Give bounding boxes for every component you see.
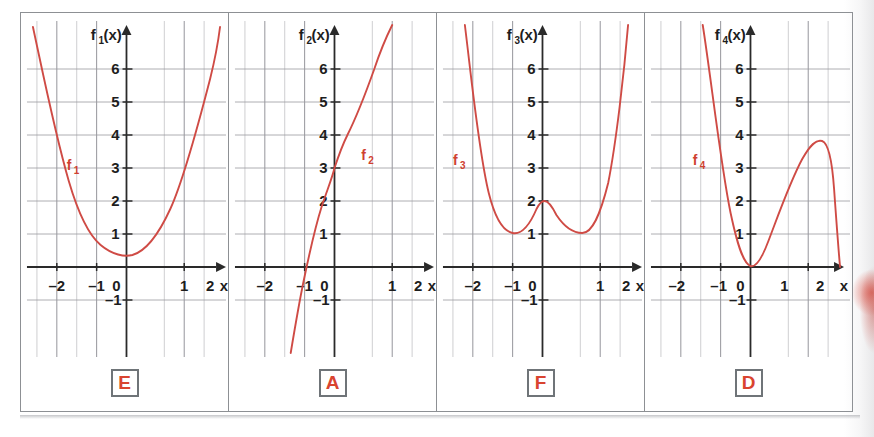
- y-tick-6: 6: [527, 60, 535, 77]
- y-axis-title-2: f 2 (x): [299, 26, 330, 46]
- tick-labels-1: –2 –1 0 1 2 x 6 5 4 3 2 1 –1: [49, 60, 228, 308]
- x-tick-2: 2: [816, 277, 824, 294]
- x-tick--1: –1: [88, 277, 105, 294]
- y-tick-6: 6: [111, 60, 119, 77]
- tick-labels-3: –2 –1 0 1 2 x 6 5 4 3 2 1 –1: [465, 60, 644, 308]
- y-axis-title-main: f: [91, 26, 97, 43]
- y-tick-4: 4: [527, 126, 536, 143]
- answer-box-2[interactable]: A: [319, 369, 347, 397]
- axes-4: [651, 25, 844, 357]
- curve-f3: [465, 25, 628, 233]
- chart-f4: –2 –1 0 1 2 x 6 5 4 3 2 1 –1: [645, 13, 852, 365]
- graph-panel-3: –2 –1 0 1 2 x 6 5 4 3 2 1 –1: [437, 13, 645, 411]
- y-tick-2: 2: [735, 192, 743, 209]
- x-axis-label: x: [636, 277, 644, 294]
- y-tick-5: 5: [527, 93, 535, 110]
- y-tick-1: 1: [319, 225, 327, 242]
- x-tick--2: –2: [49, 277, 66, 294]
- answer-row-2: A: [229, 369, 436, 397]
- answer-row-1: E: [21, 369, 228, 397]
- answer-row-3: F: [437, 369, 644, 397]
- y-tick--1: –1: [105, 291, 122, 308]
- x-tick-2: 2: [206, 277, 214, 294]
- chart-f3: –2 –1 0 1 2 x 6 5 4 3 2 1 –1: [437, 13, 644, 365]
- y-tick-3: 3: [111, 159, 119, 176]
- svg-text:3: 3: [460, 160, 466, 171]
- svg-text:f: f: [361, 147, 366, 163]
- plot-area-2: –2 –1 0 1 2 x 6 5 4 3 2 1 –1: [229, 13, 436, 365]
- plot-area-4: –2 –1 0 1 2 x 6 5 4 3 2 1 –1: [645, 13, 852, 365]
- answer-box-4[interactable]: D: [735, 369, 763, 397]
- x-tick--2: –2: [465, 277, 482, 294]
- x-axis-label: x: [840, 277, 849, 294]
- y-tick-5: 5: [319, 93, 327, 110]
- y-axis-title-main: f: [507, 26, 513, 43]
- x-axis-label: x: [220, 277, 228, 294]
- svg-text:1: 1: [74, 165, 80, 176]
- graph-panel-4: –2 –1 0 1 2 x 6 5 4 3 2 1 –1: [645, 13, 852, 411]
- svg-text:4: 4: [700, 160, 706, 171]
- y-tick--1: –1: [313, 291, 330, 308]
- chart-f2: –2 –1 0 1 2 x 6 5 4 3 2 1 –1: [229, 13, 436, 365]
- y-axis-title-main: f: [715, 26, 721, 43]
- y-tick-5: 5: [735, 93, 743, 110]
- curve-label-f1: f 1: [67, 157, 80, 176]
- x-tick--1: –1: [504, 277, 521, 294]
- y-tick-5: 5: [111, 93, 119, 110]
- tick-labels-4: –2 –1 0 1 2 x 6 5 4 3 2 1 –1: [669, 60, 849, 308]
- chart-f1: –2 –1 0 1 2 x 6 5 4 3 2 1 –1: [21, 13, 228, 365]
- curve-f2: [291, 25, 393, 353]
- x-tick-2: 2: [622, 277, 630, 294]
- y-tick-6: 6: [735, 60, 743, 77]
- x-tick-1: 1: [780, 277, 788, 294]
- svg-text:f: f: [453, 152, 458, 168]
- y-axis-title-3: f 3 (x): [507, 26, 538, 46]
- y-axis-title-tail: (x): [520, 26, 538, 43]
- x-tick--1: –1: [710, 277, 727, 294]
- y-tick-4: 4: [111, 126, 120, 143]
- x-tick--2: –2: [669, 277, 686, 294]
- y-tick--1: –1: [521, 291, 538, 308]
- y-tick-2: 2: [527, 192, 535, 209]
- answer-row-4: D: [645, 369, 852, 397]
- y-axis-title-tail: (x): [728, 26, 746, 43]
- svg-text:2: 2: [368, 155, 374, 166]
- x-tick-1: 1: [388, 277, 396, 294]
- y-tick-1: 1: [527, 225, 535, 242]
- y-tick-2: 2: [111, 192, 119, 209]
- svg-text:f: f: [67, 157, 72, 173]
- y-axis-title-main: f: [299, 26, 305, 43]
- x-tick-1: 1: [596, 277, 604, 294]
- x-tick-1: 1: [180, 277, 188, 294]
- y-axis-title-4: f 4 (x): [715, 26, 746, 46]
- plot-area-3: –2 –1 0 1 2 x 6 5 4 3 2 1 –1: [437, 13, 644, 365]
- y-tick-4: 4: [319, 126, 328, 143]
- y-axis-title-tail: (x): [104, 26, 122, 43]
- plot-area-1: –2 –1 0 1 2 x 6 5 4 3 2 1 –1: [21, 13, 228, 365]
- exercise-frame: –2 –1 0 1 2 x 6 5 4 3 2 1 –1: [20, 12, 853, 412]
- worksheet-sheet: –2 –1 0 1 2 x 6 5 4 3 2 1 –1: [0, 0, 874, 437]
- y-axis-title-tail: (x): [312, 26, 330, 43]
- answer-box-3[interactable]: F: [527, 369, 555, 397]
- x-tick-2: 2: [414, 277, 422, 294]
- svg-text:f: f: [693, 152, 698, 168]
- y-tick-3: 3: [527, 159, 535, 176]
- y-tick-3: 3: [735, 159, 743, 176]
- curve-f4: [703, 25, 840, 267]
- y-tick-1: 1: [111, 225, 119, 242]
- graph-panel-1: –2 –1 0 1 2 x 6 5 4 3 2 1 –1: [21, 13, 229, 411]
- page-bottom-shadow: [20, 415, 860, 419]
- y-axis-title-1: f 1 (x): [91, 26, 122, 46]
- tick-labels-2: –2 –1 0 1 2 x 6 5 4 3 2 1 –1: [257, 60, 436, 308]
- x-tick--2: –2: [257, 277, 274, 294]
- answer-box-1[interactable]: E: [111, 369, 139, 397]
- y-tick-4: 4: [735, 126, 744, 143]
- graph-panel-2: –2 –1 0 1 2 x 6 5 4 3 2 1 –1: [229, 13, 437, 411]
- y-tick-3: 3: [319, 159, 327, 176]
- x-axis-label: x: [428, 277, 436, 294]
- y-tick-6: 6: [319, 60, 327, 77]
- y-tick--1: –1: [729, 291, 746, 308]
